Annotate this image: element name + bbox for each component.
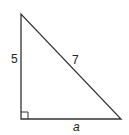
triangle-figure: 5 7 a — [0, 0, 129, 135]
triangle-outline — [21, 14, 121, 119]
horizontal-leg-label: a — [73, 120, 80, 134]
vertical-leg-label: 5 — [11, 52, 18, 66]
hypotenuse-label: 7 — [72, 53, 79, 67]
triangle-diagram: 5 7 a — [0, 0, 129, 135]
right-angle-marker — [21, 112, 28, 119]
